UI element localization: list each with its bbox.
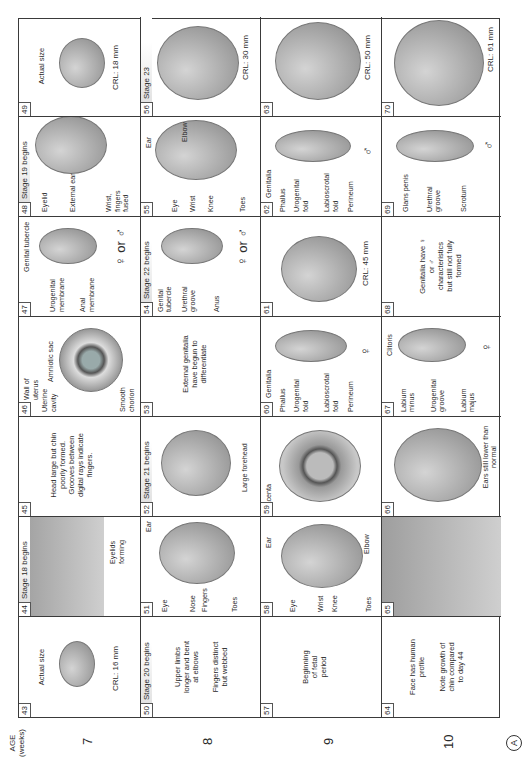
- annotation-label: Large forehead: [241, 443, 250, 492]
- stage-label: Stage 20 begins: [141, 617, 152, 703]
- female-symbol: ♀: [359, 346, 372, 356]
- day-44-cell: 44 Stage 18 begins Eyelids forming: [19, 517, 140, 617]
- face-profile-illustration: [382, 517, 502, 616]
- age-header: AGE (weeks): [8, 723, 26, 763]
- week-label-9: 9: [321, 738, 336, 745]
- day-62-cell: 62 Genitalia Phallus Urogenital fold Lab…: [261, 117, 381, 217]
- annotation-label: Knee: [207, 195, 216, 212]
- day-53-cell: 53 External genitalia have begun to diff…: [141, 317, 261, 417]
- annotation-label: Uterine cavity: [41, 382, 58, 412]
- day-66-cell: 66 Ears still lower than normal: [382, 417, 502, 517]
- cell-text: Head large but chin poorly formed. Groov…: [49, 426, 94, 504]
- day-number: 60: [261, 402, 273, 416]
- crl-measurement: CRL: 18 mm: [111, 45, 120, 90]
- genitalia-illustration: [39, 228, 97, 264]
- day-48-cell: 48 Stage 19 begins Eyelid External ear W…: [19, 117, 140, 217]
- cell-heading: Genitalia: [265, 170, 274, 198]
- day-number: 55: [141, 202, 153, 216]
- annotation-label: Toes: [231, 597, 240, 612]
- day-number: 68: [382, 302, 394, 316]
- day-68-cell: 68 Genitalia have ♀ or ♂ characteristics…: [382, 217, 502, 317]
- cell-text: Actual size: [37, 637, 46, 697]
- annotation-label: Toes: [239, 197, 248, 212]
- genitalia-illustration: [396, 130, 474, 162]
- day-50-cell: 50 Stage 20 begins Upper limbs longer an…: [141, 617, 261, 717]
- cell-text: Actual size: [37, 36, 46, 96]
- annotation-label: Labium minus: [400, 382, 417, 412]
- face-front-illustration: [161, 430, 231, 496]
- day-70-cell: 70 CRL: 61 mm: [382, 17, 502, 117]
- genitalia-illustration: [275, 330, 347, 362]
- day-number: 63: [261, 102, 273, 116]
- annotation-label: Toes: [365, 597, 374, 612]
- rotated-figure: AGE (weeks) 7 8 9 10 A 43 Actual size CR…: [0, 0, 528, 763]
- day-number: 64: [382, 703, 394, 717]
- fetus-illustration: [275, 22, 361, 100]
- genitalia-illustration: [275, 130, 351, 162]
- crl-measurement: CRL: 16 mm: [111, 646, 120, 691]
- day-49-cell: 49 Actual size CRL: 18 mm: [19, 17, 140, 117]
- day-46-cell: 46 Wall of uterus Uterine cavity Amnioti…: [19, 317, 140, 417]
- crl-measurement: CRL: 61 mm: [486, 27, 495, 72]
- stage-label: Stage 23: [141, 17, 152, 102]
- male-symbol: ♂: [482, 140, 495, 150]
- day-number: 69: [382, 202, 394, 216]
- annotation-label: Genital tubercle: [157, 272, 174, 312]
- annotation-label: Labioscrotal fold: [323, 168, 340, 212]
- face-front-illustration: [394, 428, 482, 502]
- annotation-label: Ears still lower than normal: [482, 422, 499, 492]
- face-profile-illustration: [19, 517, 104, 616]
- annotation-label: Nose: [189, 595, 198, 612]
- cell-text: Fingers distinct but webbed: [211, 637, 229, 697]
- day-43-cell: 43 Actual size CRL: 16 mm: [19, 617, 140, 717]
- panel-letter: A: [506, 735, 522, 751]
- crl-measurement: CRL: 50 mm: [363, 35, 372, 80]
- annotation-label: Phallus: [279, 388, 288, 412]
- day-47-cell: 47 Genital tubercle Urogenital membrane …: [19, 217, 140, 317]
- stage-label: Stage 19 begins: [19, 117, 30, 202]
- crl-measurement: CRL: 30 mm: [241, 35, 250, 80]
- cell-text: Face has human profile: [408, 637, 426, 697]
- annotation-label: Elbow: [181, 122, 190, 142]
- annotation-label: Anal membrane: [79, 268, 96, 312]
- day-number: 50: [141, 703, 153, 717]
- annotation-label: Labium majus: [460, 382, 477, 412]
- genitalia-illustration: [398, 328, 466, 362]
- fetus-illustration: [394, 20, 484, 106]
- day-number: 53: [141, 402, 153, 416]
- annotation-label: Wrist: [317, 596, 326, 612]
- crl-measurement: CRL: 45 mm: [361, 241, 370, 286]
- day-number: 59: [261, 502, 273, 516]
- day-65-cell: 65: [382, 517, 502, 617]
- annotation-label: Smooth chorion: [119, 382, 136, 412]
- fetus-illustration: [281, 524, 363, 588]
- day-54-cell: 54 Stage 22 begins Genital tubercle Uret…: [141, 217, 261, 317]
- annotation-label: Ear: [145, 137, 154, 148]
- annotation-label: External ear: [69, 172, 78, 212]
- day-number: 61: [261, 302, 273, 316]
- week-8-row: 50 Stage 20 begins Upper limbs longer an…: [140, 17, 261, 717]
- day-number: 58: [261, 602, 273, 616]
- annotation-label: Glans penis: [402, 172, 411, 212]
- cell-text: External genitalia have begun to differe…: [181, 328, 208, 400]
- annotation-label: Phallus: [279, 188, 288, 212]
- day-45-cell: 45 Head large but chin poorly formed. Gr…: [19, 417, 140, 517]
- day-56-cell: 56 Stage 23 CRL: 30 mm: [141, 17, 261, 117]
- day-number: 57: [261, 703, 273, 717]
- day-number: 43: [19, 703, 31, 717]
- week-label-10: 10: [441, 735, 456, 749]
- annotation-label: Knee: [331, 595, 340, 612]
- day-number: 45: [19, 502, 31, 516]
- embryo-illustration: [59, 38, 105, 88]
- annotation-label: Urethral groove: [181, 272, 198, 312]
- annotation-label: Fingers: [201, 588, 210, 612]
- day-number: 62: [261, 202, 273, 216]
- sex-symbol-female-or-male: ♀ or ♂: [114, 228, 127, 266]
- annotation-label: Urogenital fold: [293, 172, 310, 212]
- day-number: 54: [141, 302, 153, 316]
- day-number: 56: [141, 102, 153, 116]
- placenta-illustration: [279, 430, 361, 502]
- cell-text: Upper limbs longer and bent at elbows: [173, 637, 200, 697]
- embryo-illustration: [159, 522, 235, 584]
- embryo-development-table: 43 Actual size CRL: 16 mm 44 Stage 18 be…: [18, 18, 500, 718]
